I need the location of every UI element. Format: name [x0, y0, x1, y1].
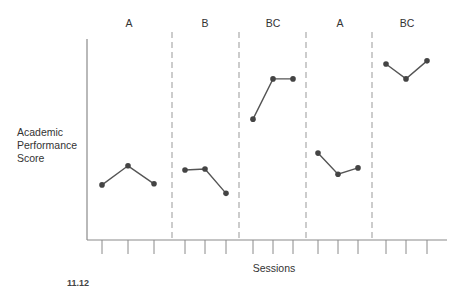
data-point: [125, 163, 131, 169]
phase-line: [185, 169, 226, 193]
y-axis-label: Academic Performance Score: [17, 126, 77, 165]
data-point: [223, 191, 229, 197]
data-series: [99, 58, 430, 196]
phase-line: [253, 79, 293, 119]
data-point: [355, 165, 361, 171]
data-point: [424, 58, 430, 64]
data-point: [290, 76, 296, 82]
data-point: [335, 171, 341, 177]
phase-line: [318, 153, 358, 174]
data-point: [270, 76, 276, 82]
y-axis-label-line: Score: [17, 152, 77, 165]
phase-label-bc1: BC: [266, 17, 281, 29]
phase-line: [102, 166, 154, 185]
data-point: [383, 61, 389, 67]
phase-label-b: B: [201, 17, 208, 29]
data-point: [99, 182, 105, 188]
x-ticks: [102, 240, 427, 254]
y-axis-label-line: Performance: [17, 139, 77, 152]
data-point: [315, 150, 321, 156]
data-point: [403, 76, 409, 82]
phase-separators: [172, 32, 372, 240]
data-point: [151, 181, 157, 187]
figure-caption: 11.12: [67, 278, 89, 288]
data-point: [250, 116, 256, 122]
y-axis-label-line: Academic: [17, 126, 77, 139]
data-point: [182, 167, 188, 173]
phase-label-a1: A: [125, 17, 132, 29]
phase-label-bc2: BC: [400, 17, 415, 29]
x-axis-label: Sessions: [253, 262, 296, 274]
data-point: [202, 166, 208, 172]
phase-label-a2: A: [336, 17, 343, 29]
